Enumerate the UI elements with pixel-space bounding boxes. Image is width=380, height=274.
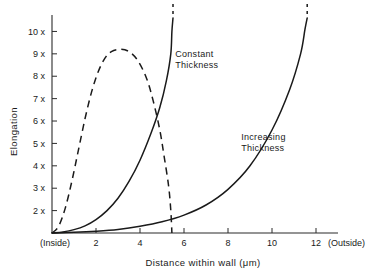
x-axis-inside-label: (Inside): [40, 238, 70, 248]
elongation-chart: 2 x3 x4 x5 x6 x7 x8 x9 x10 x 24681012 Co…: [0, 0, 380, 274]
series-annotations: ConstantThicknessIncreasingThickness: [175, 49, 286, 153]
x-tick-label-2: 6: [181, 238, 186, 248]
x-tick-label-3: 8: [225, 238, 230, 248]
series-label-1-line-1: Thickness: [241, 143, 284, 153]
y-tick-label-5: 7 x: [33, 94, 46, 104]
x-axis-ticks: 24681012: [93, 228, 321, 248]
x-tick-label-4: 10: [267, 238, 277, 248]
y-tick-label-4: 6 x: [33, 116, 46, 126]
y-tick-label-0: 2 x: [33, 206, 46, 216]
chart-page: 2 x3 x4 x5 x6 x7 x8 x9 x10 x 24681012 Co…: [0, 0, 380, 274]
series-label-0-line-0: Constant: [175, 49, 214, 59]
y-tick-label-8: 10 x: [28, 27, 46, 37]
y-tick-label-2: 4 x: [33, 161, 46, 171]
series-label-1-line-0: Increasing: [241, 132, 286, 142]
x-tick-label-0: 2: [93, 238, 98, 248]
y-tick-label-6: 8 x: [33, 71, 46, 81]
x-axis-outside-label: (Outside): [328, 238, 365, 248]
chart-curves: [52, 2, 307, 233]
y-tick-label-7: 9 x: [33, 49, 46, 59]
y-tick-label-3: 5 x: [33, 139, 46, 149]
x-tick-label-5: 12: [311, 238, 321, 248]
y-tick-label-1: 3 x: [33, 183, 46, 193]
y-axis-title: Elongation: [8, 107, 19, 156]
series-label-0-line-1: Thickness: [175, 60, 218, 70]
x-axis-title: Distance within wall (μm): [145, 257, 260, 268]
x-tick-label-1: 4: [137, 238, 142, 248]
y-axis-ticks: 2 x3 x4 x5 x6 x7 x8 x9 x10 x: [28, 27, 57, 216]
